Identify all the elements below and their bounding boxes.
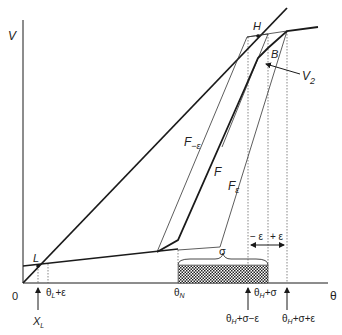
- point-B-label: B: [271, 48, 278, 60]
- curve-F-minus-eps: [157, 34, 268, 252]
- point-L: [36, 264, 40, 268]
- sigma-region: [178, 265, 268, 283]
- tick-theta-N: θN: [174, 287, 186, 299]
- curve-F-label: F: [214, 165, 222, 179]
- tick-theta-H-sigma: θH+σ: [254, 287, 277, 299]
- curve-F-minus-eps-label: F−ε: [184, 135, 202, 151]
- curve-F-eps-label: Fε: [228, 179, 240, 195]
- x-axis-label: θ: [330, 289, 337, 303]
- v2-pointer-arrow: [266, 64, 300, 74]
- tick-X-L: XL: [32, 315, 44, 329]
- plus-eps-label: + ε: [270, 231, 284, 242]
- diagram-svg: V θ 0 L H B F F−ε Fε V2 σ − ε + ε θL+ε θ…: [0, 0, 342, 335]
- diagonal-line: [23, 8, 287, 283]
- point-H: [256, 34, 260, 38]
- sigma-label: σ: [219, 245, 226, 257]
- minus-eps-label: − ε: [250, 231, 264, 242]
- tick-theta-L-eps: θL+ε: [46, 287, 66, 299]
- tick-theta-H-sigma-minus-eps: θH+σ−ε: [226, 313, 259, 325]
- diagram-canvas: V θ 0 L H B F F−ε Fε V2 σ − ε + ε θL+ε θ…: [0, 0, 342, 335]
- point-L-label: L: [33, 252, 39, 264]
- origin-label: 0: [12, 290, 18, 302]
- point-H-label: H: [253, 20, 261, 32]
- curve-V2-label: V2: [302, 69, 315, 86]
- y-axis-label: V: [8, 29, 17, 43]
- tick-theta-H-sigma-plus-eps: θH+σ+ε: [282, 313, 315, 325]
